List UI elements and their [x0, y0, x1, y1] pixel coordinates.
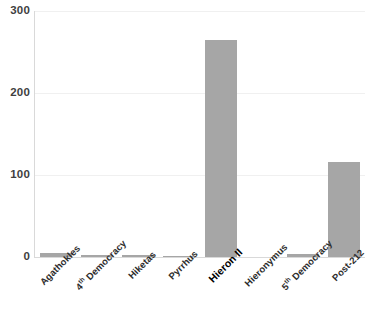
bar-slot — [283, 11, 324, 257]
x-label-slot: Hieron II — [200, 258, 241, 331]
bar-slot — [241, 11, 282, 257]
x-label-slot: 4th Democracy — [76, 258, 117, 331]
x-label-slot: Hieronymus — [241, 258, 282, 331]
x-label-slot: Agathokles — [35, 258, 76, 331]
x-label-slot: 5th Democracy — [283, 258, 324, 331]
bar-slot — [200, 11, 241, 257]
bar-slot — [118, 11, 159, 257]
y-axis-tick-labels: 0100200300 — [0, 0, 30, 331]
bars — [35, 11, 365, 257]
x-label-slot: Pyrrhus — [159, 258, 200, 331]
y-tick-label-200: 200 — [10, 87, 30, 99]
y-tick-label-100: 100 — [10, 169, 30, 181]
bar-slot — [159, 11, 200, 257]
bar[interactable] — [205, 40, 237, 257]
x-label-slot: Post-212 — [324, 258, 365, 331]
y-tick-label-300: 300 — [10, 5, 30, 17]
y-tick-label-0: 0 — [23, 251, 30, 263]
bar-slot — [76, 11, 117, 257]
x-axis-category-labels: Agathokles4th DemocracyHiketasPyrrhusHie… — [35, 258, 365, 331]
bar-slot — [35, 11, 76, 257]
plot-area — [35, 11, 365, 257]
x-label-slot: Hiketas — [118, 258, 159, 331]
bar-slot — [324, 11, 365, 257]
bar-chart: 0100200300 Agathokles4th DemocracyHiketa… — [0, 0, 370, 331]
